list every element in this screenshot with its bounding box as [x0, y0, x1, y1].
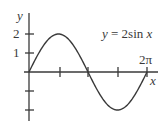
- sine-chart: y 2 1 y = 2sin x 2π x: [0, 0, 167, 128]
- equation-label: y = 2sin x: [100, 26, 153, 41]
- x-tick-label-2pi: 2π: [139, 52, 153, 67]
- y-tick-label-1: 1: [13, 45, 20, 60]
- y-axis-label: y: [15, 8, 23, 23]
- y-tick-label-2: 2: [13, 26, 20, 41]
- x-axis-label: x: [149, 73, 156, 88]
